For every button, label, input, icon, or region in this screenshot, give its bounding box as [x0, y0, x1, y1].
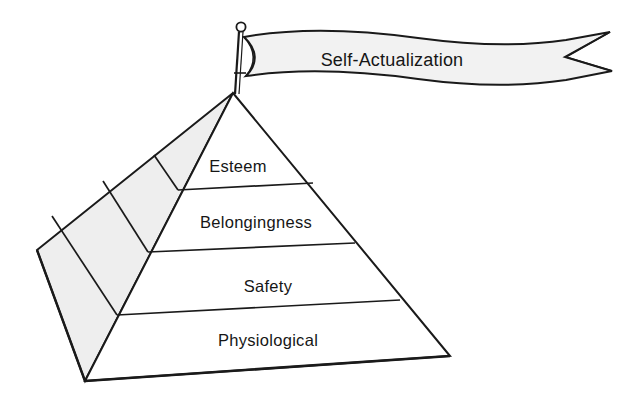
flagpole: [234, 22, 246, 94]
flagpole-shaft: [235, 32, 239, 94]
banner: Self-Actualization: [244, 31, 612, 85]
tier-label-esteem: Esteem: [209, 157, 267, 175]
flagpole-finial-icon: [236, 22, 245, 31]
tier-label-physiological: Physiological: [218, 331, 318, 349]
tier-label-safety: Safety: [244, 277, 293, 295]
banner-label-self-actualization: Self-Actualization: [321, 50, 464, 70]
pyramid-svg-canvas: Esteem Belongingness Safety Physiologica…: [0, 0, 627, 411]
tier-label-belongingness: Belongingness: [200, 213, 312, 231]
maslow-pyramid-figure: Esteem Belongingness Safety Physiologica…: [0, 0, 627, 411]
flagpole-shaft-highlight: [239, 32, 243, 94]
